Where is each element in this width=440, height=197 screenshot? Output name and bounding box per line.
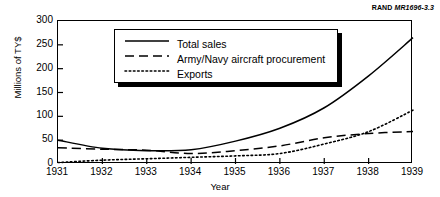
legend-label: Total sales [177, 38, 227, 50]
y-tick-label: 300 [25, 15, 53, 25]
y-tick-label: 50 [25, 134, 53, 144]
legend-swatch-dotted-icon [125, 69, 169, 79]
x-tick-label: 1938 [348, 166, 388, 177]
legend-item: Total sales [125, 36, 227, 52]
legend-swatch-solid-icon [125, 39, 169, 49]
chart-figure: RAND MR1696-3.3 Millions of TY$ 05010015… [0, 0, 440, 197]
x-tick-label: 1932 [81, 166, 121, 177]
x-tick-label: 1931 [37, 166, 77, 177]
y-tick-label: 100 [25, 110, 53, 120]
chart-legend: Total salesArmy/Navy aircraft procuremen… [114, 29, 338, 83]
x-axis-tick-labels: 193119321933193419351936193719381939 [0, 166, 440, 180]
y-tick-label: 250 [25, 39, 53, 49]
x-tick-label: 1939 [392, 166, 432, 177]
y-axis-label: Millions of TY$ [12, 18, 23, 118]
x-tick-label: 1934 [170, 166, 210, 177]
legend-item: Army/Navy aircraft procurement [125, 51, 325, 67]
legend-item: Exports [125, 66, 213, 82]
legend-label: Army/Navy aircraft procurement [177, 53, 325, 65]
rand-credit: RAND MR1696-3.3 [372, 4, 434, 11]
rand-report-number: MR1696-3.3 [394, 4, 434, 11]
legend-swatch-dashed-icon [125, 54, 169, 64]
x-tick-label: 1937 [303, 166, 343, 177]
rand-org-label: RAND [372, 4, 393, 11]
x-axis-label: Year [0, 181, 440, 192]
x-tick-label: 1933 [126, 166, 166, 177]
x-tick-label: 1935 [215, 166, 255, 177]
legend-label: Exports [177, 68, 213, 80]
y-tick-label: 150 [25, 87, 53, 97]
x-tick-label: 1936 [259, 166, 299, 177]
y-tick-label: 200 [25, 63, 53, 73]
